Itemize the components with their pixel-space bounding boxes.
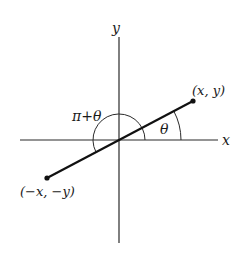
pi-plus-theta-label: π+θ bbox=[71, 108, 102, 124]
diagram-canvas: y x (x, y) (−x, −y) π+θ θ bbox=[0, 0, 234, 255]
point-xy bbox=[190, 98, 195, 103]
point-neg-xy-label: (−x, −y) bbox=[20, 184, 75, 199]
y-axis-label: y bbox=[111, 20, 121, 36]
x-axis-label: x bbox=[222, 132, 230, 148]
theta-label: θ bbox=[160, 121, 169, 137]
point-xy-label: (x, y) bbox=[192, 83, 225, 98]
point-neg-xy bbox=[44, 175, 49, 180]
theta-arc bbox=[174, 111, 181, 140]
